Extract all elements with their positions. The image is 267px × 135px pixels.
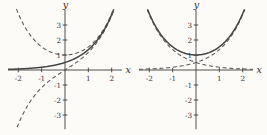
y-tick-label: 3 xyxy=(56,21,61,30)
x-axis-label: x xyxy=(125,64,131,75)
x-tick-label: 2 xyxy=(109,74,114,83)
graph-canvas: -2-112-3-2-1123xy xyxy=(133,0,267,135)
x-tick-label: -1 xyxy=(38,74,45,83)
y-tick-label: 2 xyxy=(187,36,192,45)
graph-canvas: -2-112-3-2-1123xy xyxy=(0,0,133,135)
y-tick-label: -2 xyxy=(54,96,61,105)
y-axis-label: y xyxy=(193,0,200,10)
y-axis-label: y xyxy=(62,0,69,10)
y-tick-label: -1 xyxy=(185,81,192,90)
x-tick-label: -2 xyxy=(146,74,153,83)
x-tick-label: 2 xyxy=(240,74,245,83)
x-tick-label: -2 xyxy=(15,74,22,83)
y-tick-label: -1 xyxy=(54,81,61,90)
x-tick-label: -1 xyxy=(169,74,176,83)
y-tick-label: -2 xyxy=(185,96,192,105)
y-tick-label: 1 xyxy=(56,51,61,60)
y-tick-label: 2 xyxy=(56,36,61,45)
y-tick-label: -3 xyxy=(185,111,192,120)
curve-0-5-exp-x xyxy=(147,9,253,69)
chart-sinh-cosh-halfexp: -2-112-3-2-1123xy xyxy=(0,0,133,135)
y-tick-label: 3 xyxy=(187,21,192,30)
x-tick-label: 1 xyxy=(217,74,222,83)
chart-cosh-with-exponentials: -2-112-3-2-1123xy xyxy=(133,0,267,135)
y-tick-label: -3 xyxy=(54,111,61,120)
x-axis-label: x xyxy=(256,64,262,75)
hyperbolic-functions-figure: -2-112-3-2-1123xy -2-112-3-2-1123xy xyxy=(0,0,267,135)
x-tick-label: 1 xyxy=(86,74,91,83)
